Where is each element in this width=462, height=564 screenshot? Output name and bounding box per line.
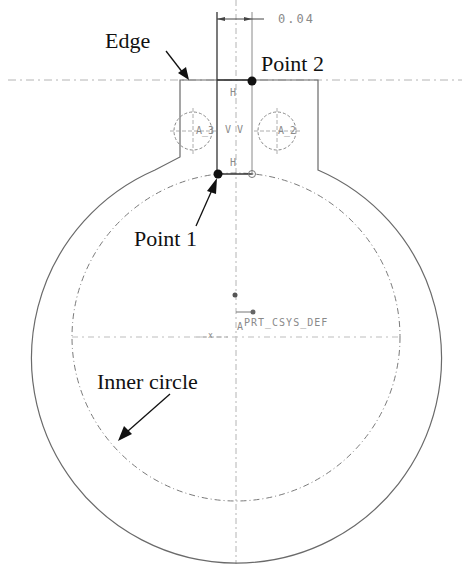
axis-label-a3[interactable]: A_3 <box>196 126 214 136</box>
constraint-vv[interactable]: V V <box>225 125 243 135</box>
dimension-arrow-right-icon <box>244 17 252 21</box>
point-2-marker-icon[interactable] <box>248 77 257 86</box>
edge-leader <box>166 51 183 73</box>
csys-a-label: A <box>237 322 243 332</box>
constraint-h-top[interactable]: H <box>230 88 236 98</box>
inner-circle-leader <box>128 394 170 431</box>
csys-x-label: x <box>208 332 213 340</box>
inner-circle-arrowhead-icon <box>118 426 132 441</box>
constraint-h-bottom[interactable]: H <box>230 158 236 168</box>
dimension-value[interactable]: 0.04 <box>278 13 315 25</box>
csys-arrow-head-icon <box>251 310 256 315</box>
point-1-marker-icon[interactable] <box>214 170 223 179</box>
snap-point-dot-icon <box>251 173 253 175</box>
edge-callout: Edge <box>105 30 150 52</box>
point-2-callout: Point 2 <box>261 53 324 75</box>
csys-label[interactable]: PRT_CSYS_DEF <box>244 318 328 328</box>
sketch-canvas[interactable] <box>0 0 462 564</box>
axis-label-a2[interactable]: A_2 <box>278 126 296 136</box>
point1-arrowhead-icon <box>207 178 217 194</box>
point1-leader <box>196 190 212 226</box>
csys-origin-icon <box>233 293 238 298</box>
point-1-callout: Point 1 <box>134 228 197 250</box>
dimension-arrow-left-icon <box>217 17 225 21</box>
inner-circle-callout: Inner circle <box>97 371 198 393</box>
